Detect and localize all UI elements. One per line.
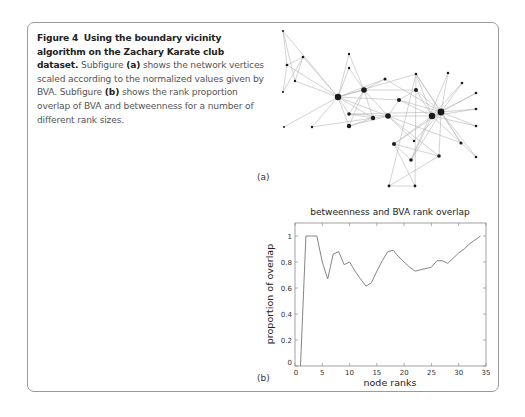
subfigure-b-label: (b) [257, 373, 270, 383]
x-tick-label: 30 [454, 369, 463, 377]
x-tick-label: 15 [372, 369, 381, 377]
x-axis-label: node ranks [364, 377, 417, 388]
x-tick-label: 20 [400, 369, 409, 377]
y-tick-label: 0.4 [281, 311, 293, 319]
x-axis-ticks: 05101520253035 [294, 223, 491, 377]
y-tick-label: 0.8 [281, 259, 292, 267]
chart-title: betweenness and BVA rank overlap [310, 207, 470, 217]
y-axis-ticks: 00.20.40.60.81 [281, 233, 486, 368]
overlap-series-line [301, 236, 481, 366]
x-tick-label: 0 [294, 369, 298, 377]
y-axis-label: proportion of overlap [264, 244, 275, 344]
y-tick-label: 0.6 [281, 285, 293, 293]
y-tick-label: 0 [288, 359, 292, 367]
overlap-line-chart: betweenness and BVA rank overlap 0510152… [0, 0, 525, 417]
plot-frame [295, 223, 486, 366]
x-tick-label: 5 [320, 369, 324, 377]
y-tick-label: 0.2 [281, 337, 292, 345]
x-tick-label: 25 [427, 369, 436, 377]
x-tick-label: 35 [482, 369, 491, 377]
x-tick-label: 10 [345, 369, 354, 377]
y-tick-label: 1 [288, 233, 292, 241]
